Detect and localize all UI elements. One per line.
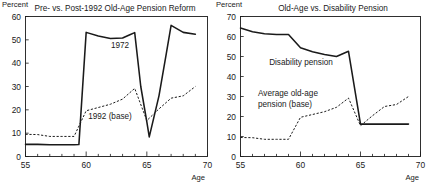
figure-two-panel-pension-charts: Percent Pre- vs. Post-1992 Old-Age Pensi…: [0, 0, 429, 185]
chart-panel-left: Percent Pre- vs. Post-1992 Old-Age Pensi…: [0, 0, 215, 185]
y-tick-label: 20: [227, 112, 237, 122]
series-label-1992-base: 1992 (base): [88, 112, 132, 121]
series-label-average-old-age-line2: pension (base): [258, 100, 312, 109]
x-tick-label: 60: [82, 160, 92, 170]
chart-panel-right: Percent Old-Age vs. Disability Pension 0…: [215, 0, 429, 185]
y-tick-label: 20: [12, 105, 22, 115]
x-tick-label: 70: [203, 160, 213, 170]
x-axis-title-right: Age: [405, 173, 419, 182]
x-tick-label: 65: [142, 160, 152, 170]
y-tick-label: 60: [12, 12, 22, 22]
plot-frame-right: [241, 17, 421, 157]
y-axis-title-left: Percent: [2, 0, 29, 9]
chart-svg-left: Percent Pre- vs. Post-1992 Old-Age Pensi…: [0, 0, 215, 185]
y-tick-label: 10: [12, 128, 22, 138]
x-axis-title-left: Age: [191, 173, 205, 182]
y-tick-label: 30: [227, 92, 237, 102]
series-label-average-old-age-line1: Average old-age: [258, 89, 318, 98]
y-axis-title-right: Percent: [216, 0, 243, 9]
y-tick-label: 50: [12, 35, 22, 45]
y-tick-label: 10: [227, 132, 237, 142]
series-label-disability-pension: Disability pension: [269, 58, 333, 67]
x-tick-label: 60: [296, 160, 306, 170]
y-axis-ticks-right: 010203040506070: [227, 12, 244, 162]
chart-title-left: Pre- vs. Post-1992 Old-Age Pension Refor…: [34, 4, 195, 13]
y-tick-label: 40: [12, 58, 22, 68]
x-axis-ticks-right: 55606570: [236, 152, 426, 170]
y-axis-ticks-left: 0102030405060: [12, 12, 29, 162]
x-tick-label: 65: [356, 160, 366, 170]
chart-title-right: Old-Age vs. Disability Pension: [278, 4, 388, 13]
x-tick-label: 70: [416, 160, 426, 170]
series-label-1972: 1972: [111, 41, 130, 50]
y-tick-label: 50: [227, 52, 237, 62]
y-tick-label: 60: [227, 32, 237, 42]
x-tick-label: 55: [21, 160, 31, 170]
y-tick-label: 40: [227, 72, 237, 82]
y-tick-label: 70: [227, 12, 237, 22]
chart-svg-right: Percent Old-Age vs. Disability Pension 0…: [215, 0, 429, 185]
x-tick-label: 55: [236, 160, 246, 170]
series-line-average-old-age-pension: [241, 28, 409, 124]
x-axis-ticks-left: 55606570: [21, 152, 213, 170]
y-tick-label: 30: [12, 82, 22, 92]
